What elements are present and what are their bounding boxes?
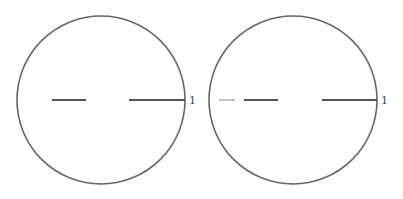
right-circle-label: 1 [381,94,388,107]
left-circle-label: 1 [189,94,196,107]
left-circle-figure: 1 [17,16,196,184]
diagram-canvas: 1 1 [0,0,403,199]
right-circle-figure: 1 [209,16,388,184]
